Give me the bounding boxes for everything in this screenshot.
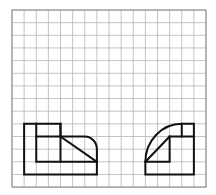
grid-lines — [12, 10, 206, 187]
grid-diagram — [0, 0, 216, 195]
